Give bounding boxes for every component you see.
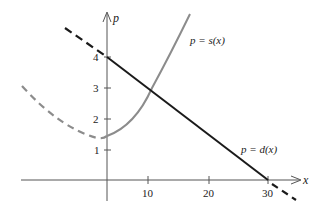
demand-line xyxy=(107,57,268,180)
x-tick-label-30: 30 xyxy=(262,187,274,199)
supply-curve xyxy=(107,14,190,136)
demand-curve-label: p = d(x) xyxy=(240,143,277,156)
y-tick-label-1: 1 xyxy=(94,144,100,156)
demand-line-dashed-upper xyxy=(65,28,107,57)
x-tick-label-20: 20 xyxy=(203,187,215,199)
y-tick-label-3: 3 xyxy=(93,82,99,94)
supply-demand-chart: 4 3 2 1 10 20 30 p x p = s(x) p = d(x) xyxy=(0,0,322,211)
y-axis-label: p xyxy=(112,11,119,25)
y-tick-label-4: 4 xyxy=(93,51,99,63)
supply-curve-label: p = s(x) xyxy=(189,34,225,47)
demand-line-dashed-lower xyxy=(272,184,296,200)
y-tick-label-2: 2 xyxy=(93,113,99,125)
x-tick-label-10: 10 xyxy=(142,187,154,199)
x-axis-label: x xyxy=(302,173,309,187)
